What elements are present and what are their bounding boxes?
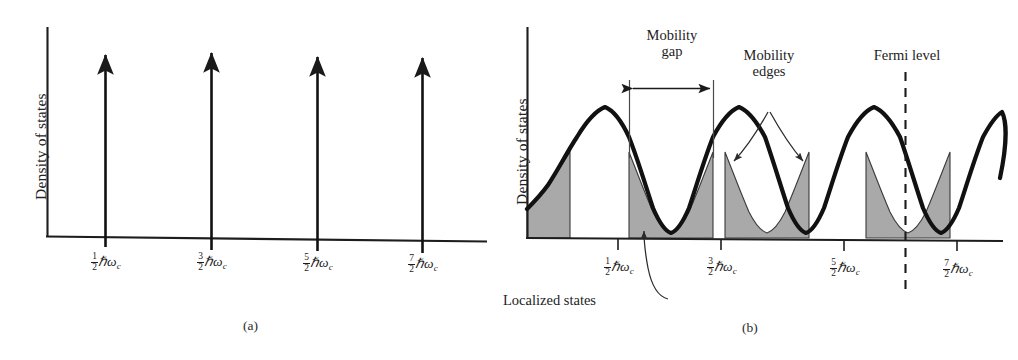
localized-band-2 bbox=[629, 152, 713, 238]
panel-a-y-axis-label: Density of states bbox=[32, 93, 50, 200]
mobility-gap-label: Mobility gap bbox=[631, 28, 713, 59]
panel-a-delta-peaks bbox=[106, 53, 423, 253]
mobility-gap-label-line1: Mobility bbox=[647, 27, 698, 43]
fermi-level-label: Fermi level bbox=[848, 48, 966, 64]
panel-a-caption: (a) bbox=[243, 318, 258, 334]
panel-a-tick-label-1: 1 2 ℏωc bbox=[78, 252, 134, 272]
panel-b-tick-label-3: 5 2 ℏωc bbox=[817, 258, 873, 278]
panel-b-localized-state-bands bbox=[527, 152, 950, 238]
panel-b-y-axis-label: Density of states bbox=[513, 98, 531, 205]
panel-b-tick-label-1: 1 2 ℏωc bbox=[591, 257, 647, 277]
figure-density-of-states: Density of states 1 2 ℏωc 3 2 ℏωc 5 2 ℏω… bbox=[0, 0, 1018, 360]
panel-a-tick-label-4: 7 2 ℏωc bbox=[395, 254, 451, 274]
panel-b-tick-label-4: 7 2 ℏωc bbox=[930, 259, 986, 279]
localized-states-label: Localized states bbox=[503, 293, 653, 309]
panel-a-tick-label-3: 5 2 ℏωc bbox=[290, 253, 346, 273]
mobility-gap-indicator bbox=[630, 80, 714, 158]
mobility-edges-label: Mobility edges bbox=[728, 48, 810, 79]
mobility-edge-arrow-right bbox=[770, 112, 803, 161]
localized-band-1 bbox=[527, 152, 570, 238]
mobility-gap-label-line2: gap bbox=[662, 43, 683, 59]
localized-states-leader-line bbox=[644, 231, 668, 299]
panel-a-tick-label-2: 3 2 ℏωc bbox=[184, 252, 240, 272]
panel-a-x-axis bbox=[46, 237, 487, 242]
panel-b-caption: (b) bbox=[742, 320, 758, 336]
mobility-edges-label-line2: edges bbox=[752, 63, 785, 79]
mobility-edges-label-line1: Mobility bbox=[744, 47, 795, 63]
panel-a bbox=[46, 27, 487, 253]
panel-b-tick-label-2: 3 2 ℏωc bbox=[694, 257, 750, 277]
